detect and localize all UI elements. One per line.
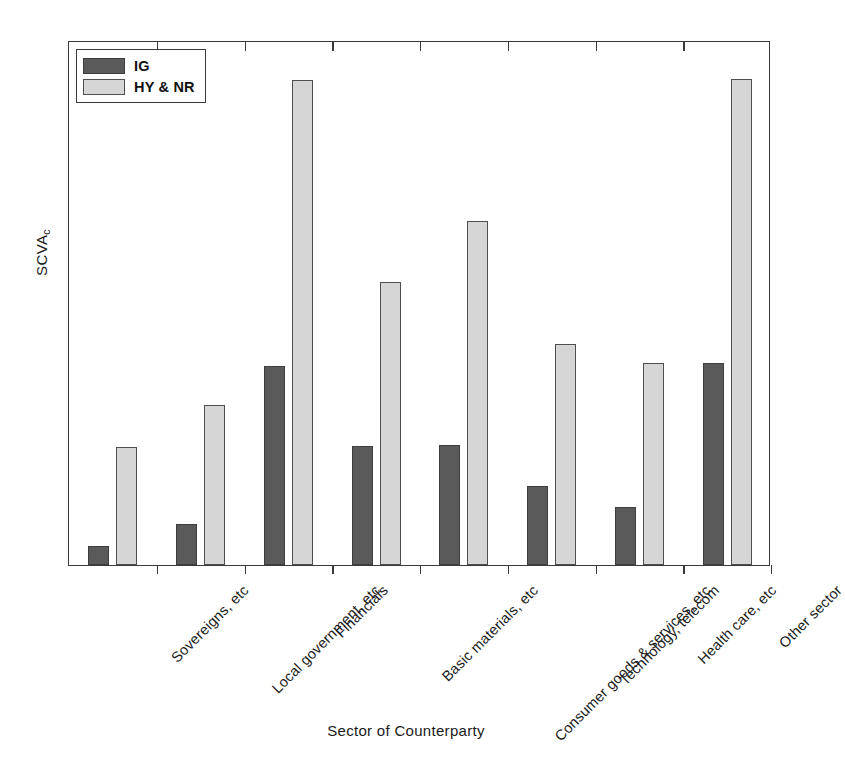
y-axis-title: SCVAc xyxy=(33,229,50,276)
x-axis-tick-top xyxy=(596,42,597,51)
x-axis-tick-bottom xyxy=(157,565,158,574)
x-axis-tick-bottom xyxy=(420,565,421,574)
bar-hy xyxy=(555,344,576,565)
bar-ig xyxy=(703,363,724,565)
bar-ig xyxy=(352,446,373,565)
bar-group xyxy=(420,42,508,565)
x-axis-tick-label: Basic materials, etc xyxy=(439,582,541,684)
bar-hy xyxy=(116,447,137,565)
x-axis-tick-top xyxy=(683,42,684,51)
bar-group xyxy=(683,42,771,565)
x-axis-tick-bottom xyxy=(332,565,333,574)
x-axis-tick-bottom xyxy=(596,565,597,574)
x-axis-tick-bottom xyxy=(245,565,246,574)
legend-label-ig: IG xyxy=(134,58,150,74)
bar-ig xyxy=(176,524,197,565)
x-axis-tick-bottom xyxy=(508,565,509,574)
bar-ig xyxy=(527,486,548,565)
bar-hy xyxy=(731,79,752,565)
chart-legend: IG HY & NR xyxy=(76,49,206,103)
bar-hy xyxy=(467,221,488,565)
x-axis-tick-bottom xyxy=(683,565,684,574)
bar-group xyxy=(157,42,245,565)
x-axis-tick-top xyxy=(508,42,509,51)
bar-ig xyxy=(264,366,285,565)
legend-swatch-hy-nr-icon xyxy=(83,79,125,95)
bar-hy xyxy=(643,363,664,565)
bar-group xyxy=(245,42,333,565)
bars-layer xyxy=(69,42,769,565)
x-axis-title: Sector of Counterparty xyxy=(0,722,812,739)
x-axis-tick-top xyxy=(332,42,333,51)
x-axis-tick-label: Technology, telecom xyxy=(616,582,722,688)
y-axis-title-subscript: c xyxy=(40,229,52,235)
x-axis-tick-top xyxy=(420,42,421,51)
bar-group xyxy=(596,42,684,565)
bar-group xyxy=(508,42,596,565)
bar-ig xyxy=(439,445,460,565)
x-axis-tick-bottom xyxy=(771,565,772,574)
plot-area xyxy=(68,41,770,566)
legend-label-hy-nr: HY & NR xyxy=(134,79,195,95)
x-axis-tick-label: Other sector xyxy=(776,582,845,651)
bar-ig xyxy=(615,507,636,565)
legend-entry-hy-nr: HY & NR xyxy=(83,76,195,97)
bar-hy xyxy=(292,80,313,565)
y-axis-title-text: SCVA xyxy=(33,235,50,276)
bar-group xyxy=(69,42,157,565)
legend-entry-ig: IG xyxy=(83,55,195,76)
bar-hy xyxy=(380,282,401,565)
x-axis-tick-label: Sovereigns, etc xyxy=(168,582,252,666)
x-axis-tick-top xyxy=(245,42,246,51)
bar-group xyxy=(332,42,420,565)
legend-swatch-ig-icon xyxy=(83,58,125,74)
bar-ig xyxy=(88,546,109,565)
bar-hy xyxy=(204,405,225,565)
